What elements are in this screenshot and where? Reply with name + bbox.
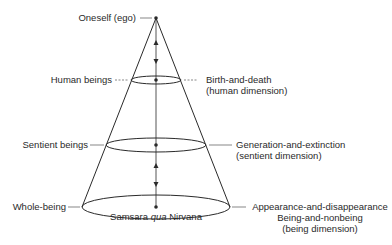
base-dot [154, 205, 158, 209]
apex-dot [154, 16, 158, 20]
label-whole-being: Whole-being [4, 201, 66, 212]
label-sentient-dimension: (sentient dimension) [236, 150, 322, 161]
cone-right-side [156, 18, 230, 207]
arrow-up-icon [154, 163, 159, 168]
human-dot [154, 78, 158, 82]
cone-diagram: Oneself (ego) Human beings Sentient bein… [0, 0, 392, 245]
label-human-beings: Human beings [40, 74, 112, 85]
arrow-up-icon [154, 40, 159, 45]
label-being-and-nonbeing: Being-and-nonbeing [250, 212, 390, 223]
label-birth-and-death: Birth-and-death [206, 74, 271, 85]
label-generation-and-extinction: Generation-and-extinction [236, 139, 345, 150]
label-nirvana: Nirvana [169, 211, 202, 222]
label-being-dimension: (being dimension) [250, 223, 390, 234]
label-sentient-beings: Sentient beings [10, 139, 88, 150]
label-samsara-qua-nirvana: Samsara qua Nirvana [96, 211, 216, 222]
label-qua: qua [151, 211, 167, 222]
label-appearance-and-disappearance: Appearance-and-disappearance [250, 201, 390, 212]
label-samsara: Samsara [110, 211, 148, 222]
label-apex: Oneself (ego) [64, 12, 136, 23]
arrow-down-icon [154, 59, 159, 64]
cone-left-side [82, 18, 156, 207]
label-human-dimension: (human dimension) [206, 85, 287, 96]
arrow-down-icon [154, 182, 159, 187]
sentient-dot [154, 143, 158, 147]
